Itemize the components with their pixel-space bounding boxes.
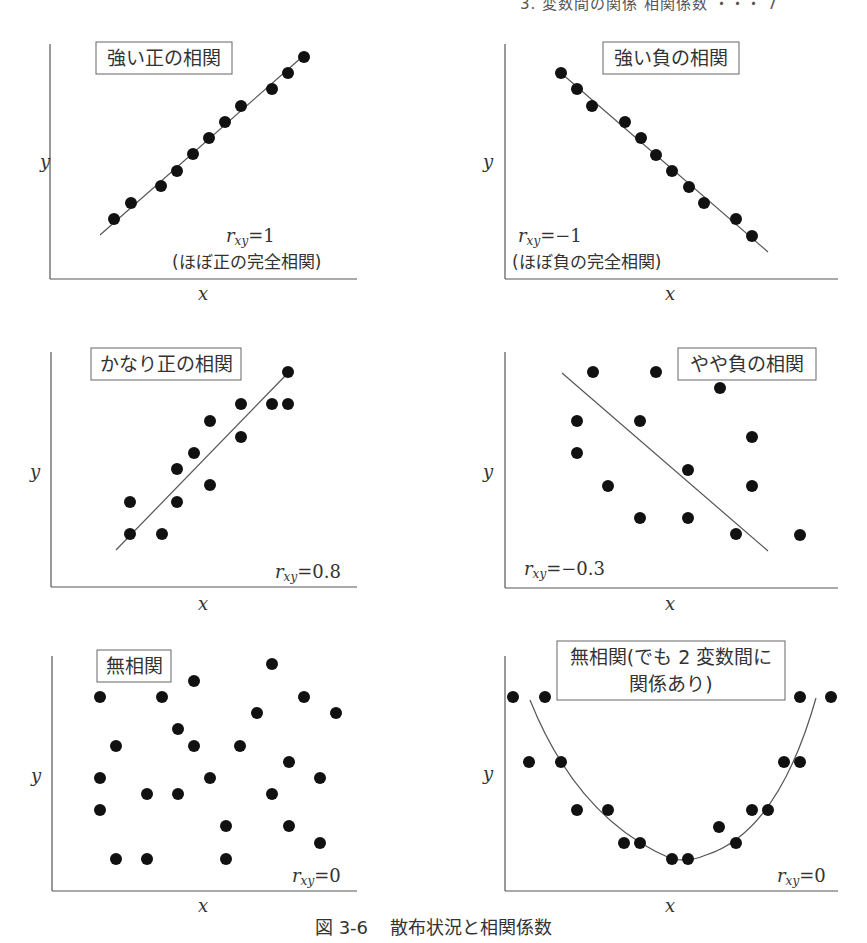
data-point [635,132,647,144]
data-point [155,180,167,192]
trend-line [561,73,768,252]
data-point [794,691,806,703]
data-point [220,853,232,865]
data-point [124,528,136,540]
data-point [298,691,310,703]
data-point [187,148,199,160]
panel-title-line1: 無相関(でも 2 変数間に [570,646,773,668]
data-point [110,853,122,865]
data-point [110,740,122,752]
data-point [523,756,535,768]
panel-title: やや負の相関 [690,353,804,375]
data-point [619,116,631,128]
data-point [586,100,598,112]
data-point [730,837,742,849]
panel-title: 無相関 [106,655,163,677]
y-label: y [482,763,494,784]
data-point [235,398,247,410]
r-annotation: rxy=1 [226,225,275,248]
data-point [602,804,614,816]
data-point [746,431,758,443]
data-points [507,691,837,865]
data-point [571,415,583,427]
data-point [125,197,137,209]
y-label: y [482,151,494,172]
data-point [282,398,294,410]
data-point [571,447,583,459]
data-point [650,366,662,378]
data-point [188,675,200,687]
data-point [220,820,232,832]
data-point [314,837,326,849]
data-point [141,788,153,800]
data-point [156,528,168,540]
figure-number: 図 3-6 [315,917,368,938]
data-point [124,496,136,508]
x-label: x [198,283,208,304]
data-points [94,658,342,865]
r-annotation: rxy=0 [292,865,341,888]
data-point [507,691,519,703]
data-point [282,67,294,79]
data-point [634,415,646,427]
scatter-figure: 強い正の相関 y x rxy=1 (ほぼ正の完全相関) 強い負の相関 y x r… [0,0,867,943]
data-point [746,480,758,492]
data-point [235,100,247,112]
r-annotation: rxy=−1 [518,225,582,248]
data-point [794,529,806,541]
data-point [587,366,599,378]
panel-title-line2: 関係あり) [629,673,712,695]
data-point [94,691,106,703]
data-point [171,496,183,508]
data-point [298,51,310,63]
r-subnote: (ほぼ正の完全相関) [172,252,321,272]
data-point [172,788,184,800]
panel-strong-positive: 強い正の相関 y x rxy=1 (ほぼ正の完全相関) [39,42,357,304]
data-point [266,658,278,670]
data-point [171,463,183,475]
data-point [730,528,742,540]
r-subnote: (ほぼ負の完全相関) [512,252,661,272]
figure-caption-text: 散布状況と相関係数 [390,917,552,938]
data-point [156,691,168,703]
data-point [108,213,120,225]
panel-title: かなり正の相関 [100,353,233,375]
y-label: y [39,151,51,172]
panel-title: 強い負の相関 [614,47,728,69]
data-point [282,366,294,378]
data-point [682,512,694,524]
data-points [555,67,758,242]
data-point [746,230,758,242]
data-point [204,772,216,784]
y-label: y [29,461,41,482]
x-label: x [198,593,208,614]
data-point [666,165,678,177]
data-point [683,181,695,193]
data-point [762,804,774,816]
data-point [283,820,295,832]
data-point [219,116,231,128]
x-label: x [665,593,675,614]
data-point [266,83,278,95]
data-point [682,464,694,476]
data-points [571,366,806,541]
data-point [172,723,184,735]
data-point [714,382,726,394]
data-point [571,83,583,95]
data-point [682,853,694,865]
data-point [204,415,216,427]
data-point [314,772,326,784]
trend-line [562,373,768,551]
data-point [698,197,710,209]
data-point [778,756,790,768]
data-point [618,837,630,849]
data-points [124,366,294,540]
trend-line [116,375,286,550]
data-point [634,837,646,849]
data-point [171,165,183,177]
data-point [94,772,106,784]
data-point [330,707,342,719]
panel-strong-negative: 強い負の相関 y x rxy=−1 (ほぼ負の完全相関) [482,42,838,304]
data-point [571,804,583,816]
data-point [666,853,678,865]
